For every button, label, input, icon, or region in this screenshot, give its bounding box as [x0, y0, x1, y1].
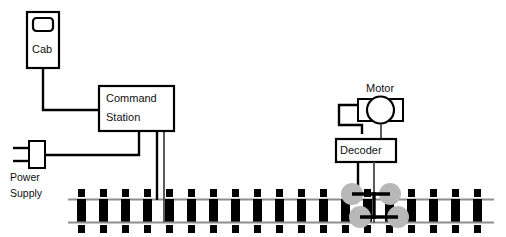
motor-label: Motor: [366, 82, 394, 94]
railroad-track: [68, 189, 494, 233]
diagram-canvas: Cab Command Station Power Supply Motor: [0, 0, 506, 237]
track-tie-row-upper: [78, 189, 481, 197]
track-tie-row-lower: [78, 225, 481, 233]
power-supply[interactable]: Power Supply: [10, 141, 45, 199]
power-supply-label-line1: Power: [10, 171, 40, 183]
command-station-label-line1: Command: [106, 92, 157, 104]
cab-screen: [33, 18, 53, 31]
motor-rotor: [367, 97, 394, 124]
decoder[interactable]: Decoder: [336, 139, 396, 162]
cab-throttle[interactable]: Cab: [27, 12, 59, 68]
power-supply-label-line2: Supply: [10, 187, 43, 199]
command-station-label-line2: Station: [106, 111, 140, 123]
cab-label: Cab: [32, 43, 52, 55]
wire-cab-to-command-station: [43, 68, 99, 110]
locomotive-wheels: [341, 183, 409, 228]
wire-power-supply-to-command-station: [45, 131, 139, 155]
track-sleeper-row: [77, 199, 482, 222]
command-station[interactable]: Command Station: [99, 86, 174, 131]
motor[interactable]: Motor: [358, 82, 403, 124]
power-supply-body: [29, 141, 45, 168]
decoder-label: Decoder: [340, 144, 382, 156]
